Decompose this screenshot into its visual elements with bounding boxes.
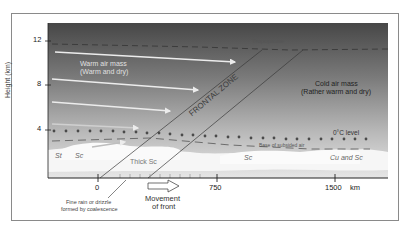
y-axis-title: Height (km) [4, 62, 11, 98]
drizzle-pointer [108, 180, 126, 198]
y-tick-4: 4 [37, 125, 41, 133]
warm-air-label-1: Warm air mass [80, 60, 127, 67]
drizzle-label-1: Fine rain or drizzle [66, 200, 111, 206]
x-tick-750: 750 [209, 184, 222, 192]
cloud-sc-mid-label: Sc [244, 154, 252, 161]
cross-section-diagram [0, 0, 415, 236]
x-tick-1500: 1500 [325, 184, 342, 192]
drizzle-label-2: formed by coalescence [61, 207, 118, 213]
x-axis-unit: km [350, 184, 360, 192]
cloud-sc-left-label: Sc [75, 152, 83, 159]
y-tick-12: 12 [33, 36, 41, 44]
cold-air-label-1: Cold air mass [315, 80, 358, 87]
cloud-st-label: St [55, 152, 62, 159]
movement-arrow-icon [148, 180, 179, 192]
freezing-level-label: 0°C level [333, 130, 359, 137]
movement-label-2: of front [152, 203, 175, 211]
cloud-cu-sc-label: Cu and Sc [330, 154, 363, 161]
x-tick-0: 0 [95, 184, 99, 192]
subsided-air-label: Base of subsided air [259, 143, 304, 148]
y-tick-8: 8 [37, 80, 41, 88]
tropopause-label: Tropopause [252, 38, 284, 44]
cloud-thick-sc-label: Thick Sc [130, 158, 157, 165]
cold-air-label-2: (Rather warm and dry) [301, 88, 371, 95]
warm-air-label-2: (Warm and dry) [80, 68, 128, 75]
